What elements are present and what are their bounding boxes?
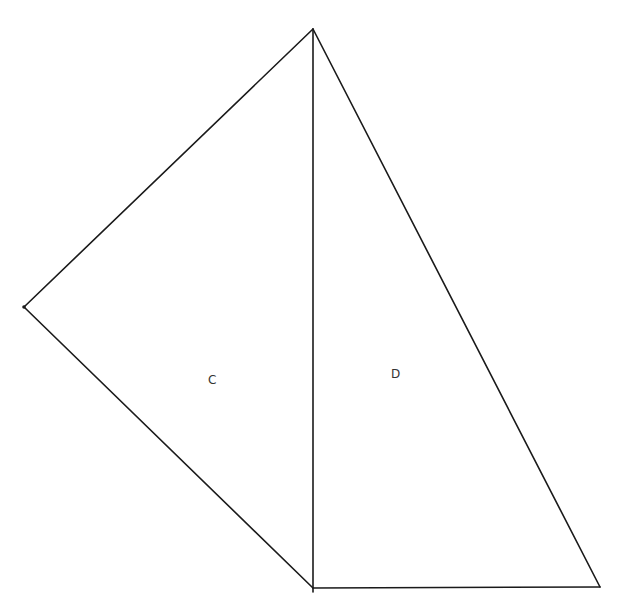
region-label-d: D xyxy=(391,367,400,381)
edge-top-right xyxy=(313,29,600,587)
edge-left-bottom xyxy=(24,307,313,588)
edge-bottom-right xyxy=(313,587,600,588)
diagram-canvas: C D xyxy=(0,0,620,614)
region-label-c: C xyxy=(208,373,216,387)
vertex-left xyxy=(22,305,26,309)
edge-top-left xyxy=(24,29,313,307)
